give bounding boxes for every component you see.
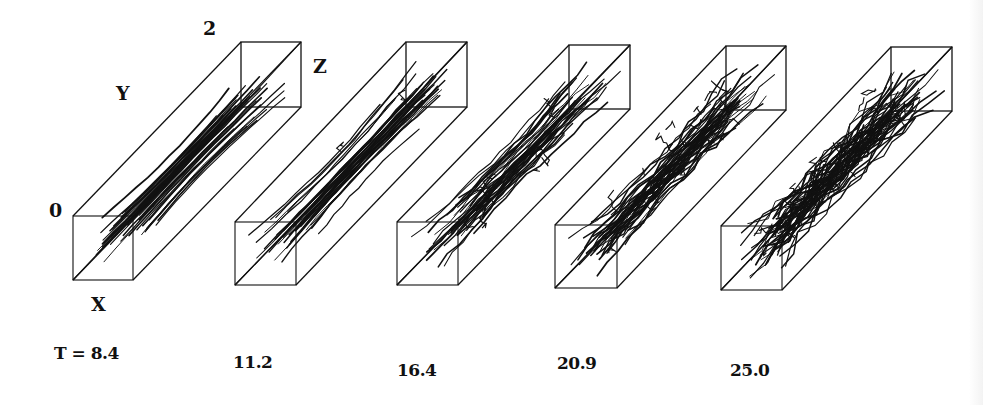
axis-label-top: 2 (203, 17, 216, 39)
panel-1 (73, 42, 301, 280)
axis-label-z: Z (313, 55, 327, 77)
axis-label-y: Y (116, 82, 130, 104)
figure-canvas (0, 0, 983, 405)
time-label-panel-3: 16.4 (397, 360, 436, 380)
time-label-panel-5: 25.0 (730, 360, 769, 380)
axis-label-x: X (91, 293, 106, 315)
time-label-panel-4: 20.9 (557, 353, 596, 373)
axis-label-origin: 0 (49, 199, 62, 221)
time-label-panel-2: 11.2 (233, 352, 272, 372)
panel-5 (721, 47, 952, 290)
simulation-panels (73, 42, 952, 290)
time-label-panel-1: T = 8.4 (54, 343, 119, 363)
fiber-bundle (96, 77, 284, 262)
page-edge-shadow (969, 0, 983, 405)
fiber-bundle (412, 62, 621, 267)
